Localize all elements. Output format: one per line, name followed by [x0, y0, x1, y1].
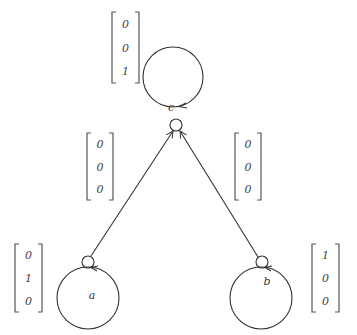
vector-entry: 0	[122, 42, 129, 55]
diagram-canvas: cab 000000001010100	[0, 0, 357, 335]
node-b[interactable]: b	[230, 256, 292, 329]
right-bracket	[257, 133, 261, 200]
node-c[interactable]: c	[143, 47, 203, 131]
edge-vector-a-c: 000	[87, 133, 113, 200]
edges-layer	[91, 131, 258, 257]
vector-entry: 0	[25, 249, 32, 262]
left-bracket	[15, 244, 19, 312]
edge-vector-b-c: 000	[235, 133, 261, 200]
node-port-circle[interactable]	[82, 256, 94, 268]
right-bracket	[335, 244, 339, 312]
node-label-b: b	[263, 275, 270, 288]
node-port-circle[interactable]	[256, 256, 268, 268]
vector-entry: 0	[245, 138, 252, 151]
vector-entry: 0	[245, 161, 252, 174]
vector-entry: 0	[97, 161, 104, 174]
vector-entry: 1	[25, 272, 32, 285]
vector-entry: 0	[97, 138, 104, 151]
right-bracket	[109, 133, 113, 200]
vector-entry: 0	[322, 295, 329, 308]
node-label-a: a	[89, 289, 96, 302]
vector-entry: 1	[122, 65, 129, 78]
vector-entry: 0	[122, 18, 129, 31]
vectors-layer: 000000001010100	[15, 12, 339, 312]
right-bracket	[135, 12, 139, 83]
node-port-circle[interactable]	[170, 119, 182, 131]
left-bracket	[112, 12, 116, 83]
left-bracket	[312, 244, 316, 312]
node-a[interactable]: a	[57, 256, 119, 329]
node-circle[interactable]	[143, 47, 203, 107]
vector-entry: 1	[322, 249, 329, 262]
node-circle[interactable]	[230, 267, 292, 329]
vector-entry: 0	[97, 183, 104, 196]
left-bracket	[87, 133, 91, 200]
nodes-layer: cab	[57, 47, 292, 329]
node-vector-c: 001	[112, 12, 139, 83]
vector-entry: 0	[322, 272, 329, 285]
vector-entry: 0	[25, 295, 32, 308]
node-label-c: c	[168, 101, 174, 114]
node-vector-a: 010	[15, 244, 42, 312]
right-bracket	[38, 244, 42, 312]
vector-entry: 0	[245, 183, 252, 196]
node-vector-b: 100	[312, 244, 339, 312]
left-bracket	[235, 133, 239, 200]
